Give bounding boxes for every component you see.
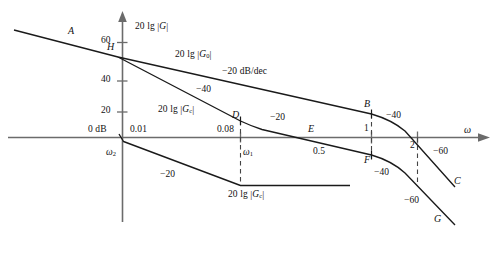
x-tick-label-0p5: 0.5 <box>313 147 325 157</box>
x-tick-label-0p01: 0.01 <box>130 125 147 135</box>
slope-label-minus20-lower: −20 <box>160 170 175 180</box>
point-label-F: F <box>364 155 370 165</box>
plot-canvas <box>0 0 501 253</box>
y-axis-arrowhead <box>118 11 127 22</box>
y-tick-label-20: 20 <box>101 106 111 116</box>
bode-plot-figure: 20 lg |G| 60 40 20 0 dB 0.01 0.08 0.5 1 … <box>0 0 501 253</box>
point-label-C: C <box>454 176 461 186</box>
slope-label-minus40-B: −40 <box>386 111 401 121</box>
x-axis-arrowhead <box>478 133 490 142</box>
slope-label-minus60-G: −60 <box>404 196 419 206</box>
curve-label-gc-lower: 20 lg |Gc| <box>228 190 264 200</box>
point-label-D: D <box>232 110 239 120</box>
point-label-B: B <box>364 99 370 109</box>
curve-label-g0: 20 lg |G0| <box>175 50 212 60</box>
slope-label-minus60-C: −60 <box>433 147 448 157</box>
omega1-label: ω1 <box>243 148 253 158</box>
point-label-H: H <box>107 42 114 52</box>
curve-label-gc-upper: 20 lg |Gc| <box>158 105 194 115</box>
point-label-G: G <box>434 214 441 224</box>
y-tick-label-40: 40 <box>101 75 111 85</box>
slope-label-minus40-upper: −40 <box>196 85 211 95</box>
slope-label-minus40-F: −40 <box>374 168 389 178</box>
slope-label-minus20-db-dec: −20 dB/dec <box>222 67 267 77</box>
x-tick-label-2: 2 <box>410 141 415 151</box>
zero-db-label: 0 dB <box>88 125 107 135</box>
x-axis-label: ω <box>464 125 471 135</box>
y-axis-label: 20 lg |G| <box>135 22 168 32</box>
x-tick-label-0p08: 0.08 <box>217 125 234 135</box>
x-tick-label-1: 1 <box>364 124 369 134</box>
omega2-label: ω2 <box>106 148 116 158</box>
slope-label-minus20-mid: −20 <box>270 113 285 123</box>
point-label-A: A <box>68 26 74 36</box>
point-label-E: E <box>308 124 314 134</box>
